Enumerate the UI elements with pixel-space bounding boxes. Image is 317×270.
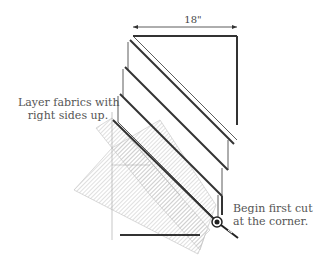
annotation-line: Begin first cut (233, 202, 313, 215)
diagram: 18" Layer fabrics with right sides up. B… (0, 0, 317, 270)
quilting-ruler (74, 112, 216, 254)
dimension-arrow (133, 25, 237, 29)
annotation-line: Layer fabrics with (18, 96, 118, 109)
diagram-graphic (0, 0, 317, 270)
annotation-line: at the corner. (233, 215, 313, 228)
annotation-layer-fabrics: Layer fabrics with right sides up. (18, 96, 118, 122)
annotation-begin-cut: Begin first cut at the corner. (233, 202, 313, 228)
annotation-line: right sides up. (18, 109, 118, 122)
dimension-label: 18" (178, 14, 208, 25)
